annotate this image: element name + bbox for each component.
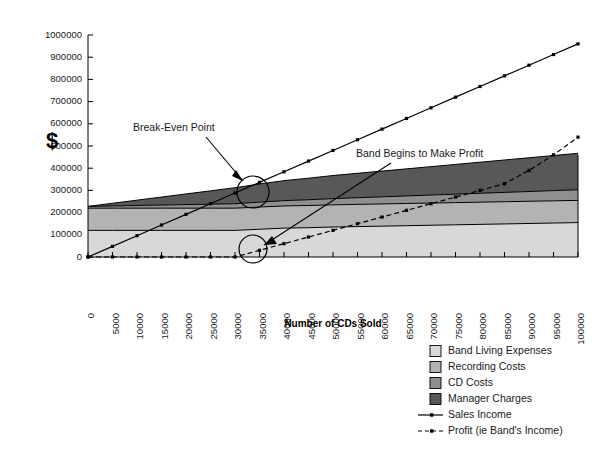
- chart-legend: Band Living ExpensesRecording CostsCD Co…: [418, 344, 563, 436]
- legend-label: Band Living Expenses: [448, 344, 552, 356]
- break-even-chart: 0100000200000300000400000500000600000700…: [0, 0, 613, 456]
- legend-label: Recording Costs: [448, 360, 526, 372]
- line-point-marker: [111, 245, 114, 248]
- x-tick-label: 25000: [208, 313, 219, 339]
- line-point-marker: [405, 117, 408, 120]
- y-tick-label: 700000: [50, 95, 82, 106]
- line-point-marker: [380, 215, 383, 218]
- chart-canvas: 0100000200000300000400000500000600000700…: [0, 0, 613, 456]
- x-tick-label: 15000: [159, 313, 170, 339]
- y-tick-label: 300000: [50, 184, 82, 195]
- x-tick-label: 80000: [477, 313, 488, 339]
- line-point-marker: [527, 169, 530, 172]
- line-point-marker: [527, 64, 530, 67]
- legend-swatch: [430, 346, 441, 357]
- line-point-marker: [429, 106, 432, 109]
- line-point-marker: [135, 234, 138, 237]
- y-tick-label: 400000: [50, 162, 82, 173]
- line-point-marker: [356, 222, 359, 225]
- line-point-marker: [307, 235, 310, 238]
- x-axis-ticks: [88, 252, 578, 257]
- x-tick-label: 35000: [257, 313, 268, 339]
- x-tick-label: 65000: [404, 313, 415, 339]
- y-tick-label: 800000: [50, 73, 82, 84]
- line-point-marker: [454, 195, 457, 198]
- line-point-marker: [356, 138, 359, 141]
- x-tick-label: 5000: [110, 313, 121, 334]
- line-point-marker: [478, 85, 481, 88]
- y-tick-label: 1000000: [45, 29, 82, 40]
- x-tick-label: 10000: [134, 313, 145, 339]
- profit-start-label: Band Begins to Make Profit: [356, 147, 483, 159]
- y-tick-label: 200000: [50, 206, 82, 217]
- line-point-marker: [454, 96, 457, 99]
- line-point-marker: [405, 209, 408, 212]
- line-point-marker: [160, 223, 163, 226]
- line-point-marker: [307, 159, 310, 162]
- line-point-marker: [258, 249, 261, 252]
- x-tick-label: 30000: [232, 313, 243, 339]
- line-point-marker: [331, 149, 334, 152]
- line-point-marker: [478, 189, 481, 192]
- line-point-marker: [576, 136, 579, 139]
- x-tick-label: 70000: [428, 313, 439, 339]
- x-tick-label: 85000: [502, 313, 513, 339]
- line-point-marker: [552, 53, 555, 56]
- y-tick-label: 900000: [50, 51, 82, 62]
- legend-line-marker: [430, 413, 433, 416]
- line-point-marker: [552, 153, 555, 156]
- line-point-marker: [282, 242, 285, 245]
- line-point-marker: [503, 182, 506, 185]
- x-tick-label: 0: [85, 313, 96, 318]
- line-point-marker: [380, 128, 383, 131]
- line-point-marker: [184, 213, 187, 216]
- break-even-arrowhead: [232, 170, 243, 181]
- y-tick-label: 0: [77, 251, 82, 262]
- line-point-marker: [503, 74, 506, 77]
- legend-label: Manager Charges: [448, 392, 532, 404]
- x-tick-label: 90000: [526, 313, 537, 339]
- legend-label: Sales Income: [448, 408, 512, 420]
- x-tick-label: 20000: [183, 313, 194, 339]
- x-tick-label: 100000: [575, 313, 586, 345]
- line-point-marker: [576, 42, 579, 45]
- line-point-marker: [331, 229, 334, 232]
- line-point-marker: [429, 202, 432, 205]
- y-tick-label: 600000: [50, 117, 82, 128]
- line-point-marker: [233, 191, 236, 194]
- y-tick-label: 100000: [50, 228, 82, 239]
- legend-label: Profit (ie Band's Income): [448, 424, 563, 436]
- break-even-label: Break-Even Point: [133, 121, 215, 133]
- legend-swatch: [430, 394, 441, 405]
- legend-label: CD Costs: [448, 376, 493, 388]
- x-tick-label: 75000: [453, 313, 464, 339]
- line-point-marker: [282, 170, 285, 173]
- legend-swatch: [430, 378, 441, 389]
- line-point-marker: [258, 181, 261, 184]
- line-point-marker: [209, 202, 212, 205]
- legend-swatch: [430, 362, 441, 373]
- x-axis-title: Number of CDs Sold: [284, 318, 381, 329]
- y-axis-title: $: [46, 128, 58, 153]
- legend-line-marker: [430, 429, 433, 432]
- x-tick-label: 95000: [551, 313, 562, 339]
